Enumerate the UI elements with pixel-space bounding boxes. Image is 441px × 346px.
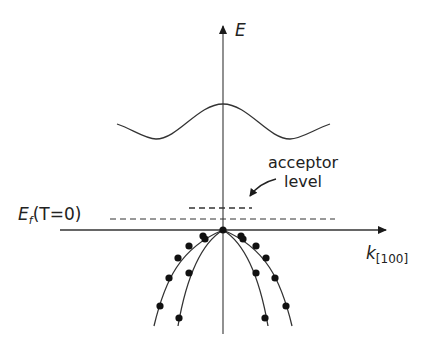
fermi-E: E [18, 204, 29, 224]
acceptor-label: acceptor level [268, 153, 338, 191]
k-symbol: k [366, 243, 376, 263]
acceptor-label-line1: acceptor [268, 153, 338, 172]
k-axis-label: k[100] [366, 243, 408, 266]
fermi-temp: (T=0) [33, 204, 82, 224]
fermi-level-label: Ef(T=0) [18, 204, 81, 227]
band-diagram [0, 0, 441, 346]
acceptor-label-line2: level [268, 172, 338, 191]
energy-axis-label: E [235, 20, 246, 40]
k-direction-subscript: [100] [376, 252, 408, 266]
